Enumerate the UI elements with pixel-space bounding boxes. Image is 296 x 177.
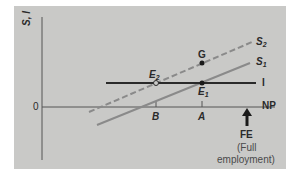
point-e2 <box>154 81 159 86</box>
s1-label: S1 <box>256 57 267 68</box>
fe-note-line2: employment) <box>217 155 275 165</box>
up-arrow-icon <box>242 108 252 126</box>
x-axis-label: NP <box>262 101 276 111</box>
fe-note-line1: (Full <box>237 143 256 153</box>
e1-label: E1 <box>198 87 209 98</box>
e2-label-sub: 2 <box>156 74 160 81</box>
fe-label: FE <box>240 130 253 140</box>
s2-label: S2 <box>256 37 267 48</box>
origin-label: 0 <box>33 102 39 112</box>
i-label: I <box>262 78 265 88</box>
s2-label-main: S <box>256 36 263 47</box>
tick-label-a: A <box>198 112 205 122</box>
s2-curve <box>89 42 252 112</box>
i-label-main: I <box>262 77 265 88</box>
e1-label-sub: 1 <box>205 91 209 98</box>
s1-label-main: S <box>256 56 263 67</box>
e1-label-main: E <box>198 86 205 97</box>
y-axis-label-text: S, I <box>21 11 32 26</box>
point-g <box>200 61 205 66</box>
g-label-main: G <box>198 49 206 60</box>
g-label: G <box>198 50 206 60</box>
e2-label: E2 <box>149 70 160 81</box>
s2-label-sub: 2 <box>263 41 267 48</box>
s1-curve <box>97 63 250 125</box>
point-e1 <box>200 81 205 86</box>
e2-label-main: E <box>149 69 156 80</box>
tick-label-b: B <box>152 112 159 122</box>
s1-label-sub: 1 <box>263 61 267 68</box>
y-axis-label: S, I <box>22 11 32 26</box>
